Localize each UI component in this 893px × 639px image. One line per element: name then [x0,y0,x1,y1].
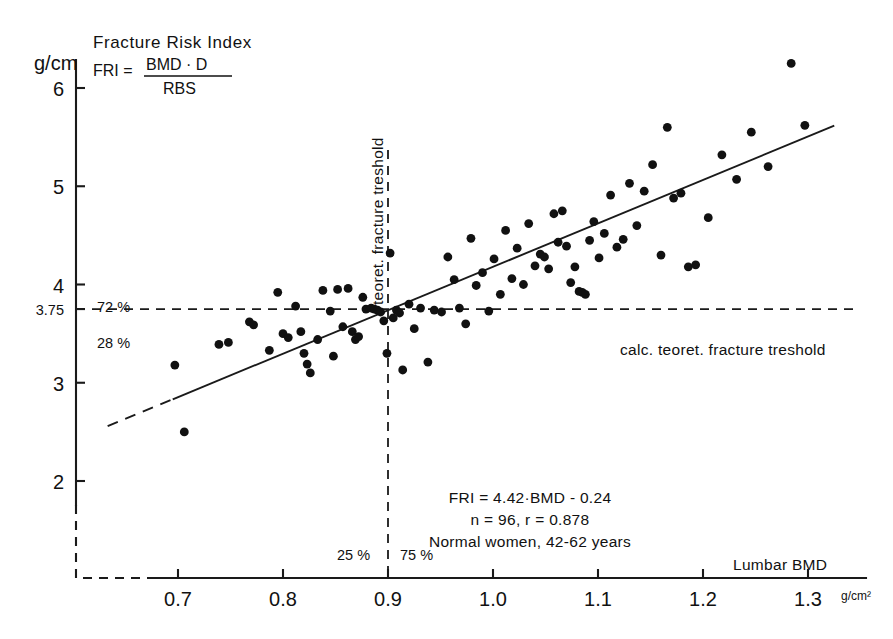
formula-numerator: BMD · D [146,56,207,73]
data-point [443,253,452,262]
data-point [585,236,594,245]
y-tick-label: 4 [53,275,64,297]
pct-left-threshold: 25 % [337,547,370,563]
data-point [581,290,590,299]
data-point [265,346,274,355]
x-axis-title: Lumbar BMD [733,556,827,573]
data-point [398,366,407,375]
data-point [648,160,657,169]
data-point [496,290,505,299]
data-point [519,280,528,289]
sample-description: Normal women, 42-62 years [429,533,631,550]
data-point [383,349,392,358]
threshold-lines [76,150,860,578]
x-tick-label: 1.3 [794,588,822,610]
x-tick-label: 0.9 [374,588,402,610]
horizontal-threshold-label: calc. teoret. fracture treshold [620,341,826,358]
data-point [501,226,510,235]
data-point [467,234,476,243]
data-point [718,150,727,159]
data-point [215,340,224,349]
x-tick-label: 0.7 [164,588,192,610]
data-point [338,322,347,331]
x-tick-label: 1.2 [689,588,717,610]
data-point [544,264,553,273]
y-tick-label: 2 [53,471,64,493]
pct-below-threshold: 28 % [97,335,130,351]
plot-title: Fracture Risk Index [93,33,252,52]
data-point [478,268,487,277]
regression-stats: n = 96, r = 0.878 [471,511,590,528]
scatter-plot: 233.754560.70.80.91.01.11.21.3 Fracture … [0,0,893,639]
data-point [472,281,481,290]
data-point [513,244,522,253]
y-tick-label: 3 [53,373,64,395]
data-point [300,349,309,358]
formula-lhs: FRI = [93,62,133,79]
data-point [358,293,367,302]
data-point [562,242,571,251]
x-tick-label: 1.1 [584,588,612,610]
data-point [379,316,388,325]
data-point [424,358,433,367]
data-point [249,320,258,329]
data-point [589,217,598,226]
data-point [508,274,517,283]
data-point [613,243,622,252]
data-point [677,189,686,198]
data-point [329,352,338,361]
data-point [437,308,446,317]
y-tick-label: 3.75 [36,302,64,318]
data-point [619,235,628,244]
data-point [224,338,233,347]
data-point [333,285,342,294]
data-point [313,335,322,344]
data-point [180,427,189,436]
data-point [291,302,300,311]
data-point [386,249,395,258]
data-point [606,191,615,200]
vertical-threshold-label: teoret. fracture treshold [369,137,386,305]
data-point [326,307,335,316]
data-points [170,59,809,436]
data-point [319,286,328,295]
data-point [657,251,666,260]
data-point [461,319,470,328]
x-axis-unit-label: g/cm² [841,589,871,603]
data-point [747,128,756,137]
data-point [732,175,741,184]
data-point [787,59,796,68]
data-point [430,306,439,315]
data-point [640,187,649,196]
data-point [273,288,282,297]
regression-line-dashed [108,399,173,426]
data-point [296,327,305,336]
data-point [490,255,499,264]
data-point [450,275,459,284]
data-point [170,361,179,370]
data-point [306,369,315,378]
data-point [524,219,533,228]
data-point [632,221,641,230]
data-point [558,206,567,215]
data-point [410,324,419,333]
data-point [540,253,549,262]
data-point [800,121,809,130]
data-point [416,304,425,313]
data-point [303,360,312,369]
data-point [595,254,604,263]
data-point [455,304,464,313]
data-point [684,262,693,271]
data-point [531,261,540,270]
data-point [691,260,700,269]
data-point [354,332,363,341]
x-tick-label: 1.0 [479,588,507,610]
y-axis-unit-label: g/cm [34,52,77,74]
pct-above-threshold: 72 % [97,299,130,315]
regression-line-solid [173,126,835,400]
regression-line [108,126,835,427]
data-point [284,333,293,342]
formula-denominator: RBS [163,80,196,97]
data-point [550,209,559,218]
data-point [704,213,713,222]
